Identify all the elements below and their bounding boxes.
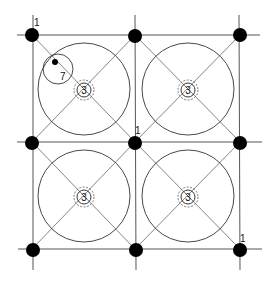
center-label: 3 (81, 192, 87, 203)
column-dot (129, 243, 143, 257)
column-dot (233, 136, 247, 150)
column-label-top-left: 1 (34, 17, 40, 28)
center-label: 3 (185, 85, 191, 96)
center-label: 3 (81, 85, 87, 96)
detail-circle: 7 (43, 54, 73, 84)
detail-label: 7 (60, 71, 66, 82)
center-label: 3 (185, 192, 191, 203)
column-label-center: 1 (135, 125, 141, 136)
column-dot (233, 28, 247, 42)
column-dot (233, 243, 247, 257)
column-label-bottom-right: 1 (240, 233, 246, 244)
detail-dot (52, 59, 58, 65)
bay-center-bottom-left: 3 (74, 187, 94, 207)
bay-grid-diagram: 3 3 3 3 7 1 (0, 0, 275, 284)
column-dot (25, 136, 39, 150)
column-dot (128, 29, 142, 43)
column-dot (25, 28, 39, 42)
bay-center-bottom-right: 3 (178, 187, 198, 207)
bay-center-top-left: 3 (74, 80, 94, 100)
column-dot (26, 243, 40, 257)
bay-center-top-right: 3 (178, 80, 198, 100)
column-dot (128, 136, 142, 150)
